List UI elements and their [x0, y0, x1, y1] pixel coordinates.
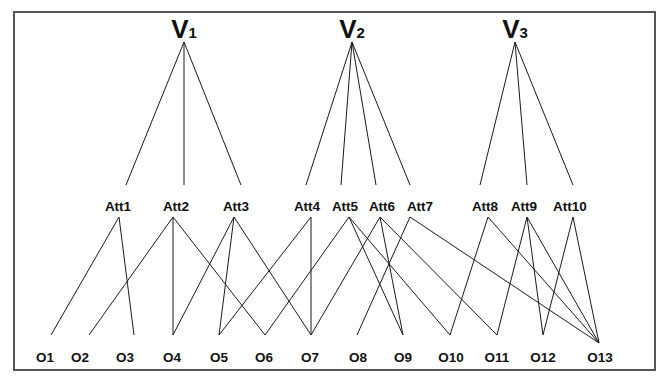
view-letter: V: [339, 14, 357, 44]
edge-att8-o10: [450, 217, 488, 335]
edge-v3-att8: [480, 42, 515, 185]
edge-att4-o5: [219, 217, 311, 335]
edge-att10-o12: [543, 217, 573, 335]
edge-v2-att5: [341, 42, 352, 185]
object-label-o5: O5: [210, 350, 229, 365]
edge-v2-att7: [352, 42, 410, 185]
attribute-label-att5: Att5: [332, 199, 359, 214]
attribute-label-att2: Att2: [163, 199, 189, 214]
object-label-o4: O4: [163, 350, 182, 365]
object-label-o9: O9: [394, 350, 412, 365]
view-label-v2: V2: [339, 14, 365, 44]
view-label-v3: V3: [502, 14, 528, 44]
edge-att2-o2: [89, 217, 173, 335]
edge-att3-o4: [173, 217, 234, 335]
edge-v3-att10: [515, 42, 573, 185]
attribute-label-att8: Att8: [472, 199, 499, 214]
hierarchy-diagram: V1V2V3 Att1Att2Att3Att4Att5Att6Att7Att8A…: [0, 0, 662, 379]
view-letter: V: [171, 14, 189, 44]
object-label-o12: O12: [530, 350, 556, 365]
edge-att6-o11: [380, 217, 497, 335]
view-label-v1: V1: [171, 14, 197, 44]
attribute-label-att4: Att4: [294, 199, 321, 214]
edge-att1-o1: [51, 217, 119, 335]
view-labels: V1V2V3: [171, 14, 528, 44]
view-attribute-edges: [126, 42, 573, 185]
view-subscript: 2: [357, 24, 365, 41]
edge-att9-o11: [497, 217, 527, 335]
edge-v2-att4: [306, 42, 352, 185]
attribute-label-att9: Att9: [511, 199, 537, 214]
object-labels: O1O2O3O4O5O6O7O8O9O10O11O12O13: [36, 350, 613, 365]
edge-att3-o7: [234, 217, 311, 335]
object-label-o7: O7: [301, 350, 319, 365]
edge-att3-o5: [219, 217, 234, 335]
object-label-o10: O10: [438, 350, 464, 365]
edge-att5-o6: [265, 217, 349, 335]
edge-v3-att9: [515, 42, 527, 185]
edge-v1-att3: [184, 42, 241, 185]
attribute-label-att1: Att1: [105, 199, 132, 214]
attribute-label-att10: Att10: [553, 199, 587, 214]
object-label-o11: O11: [485, 350, 510, 365]
view-letter: V: [502, 14, 520, 44]
edge-att1-o3: [119, 217, 134, 335]
view-subscript: 3: [520, 24, 528, 41]
attribute-object-edges: [51, 217, 599, 343]
object-label-o13: O13: [587, 350, 613, 365]
edge-att9-o13: [527, 217, 599, 343]
edge-att5-o9: [349, 217, 403, 335]
object-label-o3: O3: [116, 350, 135, 365]
attribute-labels: Att1Att2Att3Att4Att5Att6Att7Att8Att9Att1…: [105, 199, 587, 214]
attribute-label-att6: Att6: [369, 199, 396, 214]
view-subscript: 1: [189, 24, 197, 41]
object-label-o1: O1: [36, 350, 55, 365]
attribute-label-att3: Att3: [223, 199, 250, 214]
object-label-o2: O2: [71, 350, 89, 365]
edge-v2-att6: [352, 42, 376, 185]
attribute-label-att7: Att7: [407, 199, 433, 214]
object-label-o8: O8: [349, 350, 368, 365]
edge-att2-o6: [173, 217, 265, 335]
edge-att6-o7: [311, 217, 380, 335]
object-label-o6: O6: [255, 350, 274, 365]
edge-att10-o13: [573, 217, 599, 343]
edge-v1-att1: [126, 42, 184, 185]
